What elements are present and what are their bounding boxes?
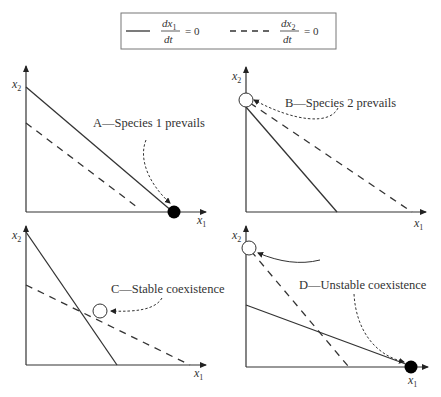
x-axis-label: x1 <box>413 216 423 232</box>
isocline-species2 <box>26 285 190 365</box>
isocline-species1 <box>246 305 411 366</box>
stable-equilibrium-point <box>168 206 181 219</box>
panel-b: x2 x1 B—Species 2 prevails <box>231 67 426 232</box>
panel-a: x2 x1 A—Species 1 prevails <box>11 66 206 229</box>
isocline-species1 <box>26 232 117 365</box>
equilibrium-point-filled <box>405 361 418 374</box>
legend: dx1 dt = 0 dx2 dt = 0 <box>121 13 336 49</box>
panel-c: x2 x1 C—Stable coexistence <box>11 226 225 382</box>
legend-solid-equals: = 0 <box>185 25 200 37</box>
panel-a-caption: A—Species 1 prevails <box>93 116 205 130</box>
isocline-diagram: dx1 dt = 0 dx2 dt = 0 x2 x1 A—Species 1 … <box>0 0 441 397</box>
equilibrium-point-open <box>242 241 256 255</box>
panel-b-caption: B—Species 2 prevails <box>285 96 396 110</box>
coexistence-equilibrium-point <box>93 304 107 318</box>
panel-d: x2 x1 D—Unstable coexistence <box>231 226 428 389</box>
y-axis-label: x2 <box>231 228 241 244</box>
x-axis-label: x1 <box>196 213 206 229</box>
x-axis-label: x1 <box>407 373 417 389</box>
legend-dashed-equals: = 0 <box>304 25 319 37</box>
legend-solid-denominator: dt <box>164 33 174 45</box>
pointer-arrow-open <box>258 253 320 262</box>
isocline-species2 <box>251 251 348 366</box>
panel-d-caption: D—Unstable coexistence <box>299 278 427 292</box>
panel-c-caption: C—Stable coexistence <box>111 282 225 296</box>
x-axis-label: x1 <box>193 366 203 382</box>
pointer-arrow <box>111 298 162 311</box>
isocline-species1 <box>26 87 173 212</box>
pointer-arrow-filled <box>354 294 404 362</box>
legend-dashed-denominator: dt <box>283 33 293 45</box>
isocline-species1 <box>246 107 337 212</box>
y-axis-label: x2 <box>231 69 241 85</box>
isocline-species2 <box>250 103 412 212</box>
isocline-species2 <box>26 123 137 207</box>
y-axis-label: x2 <box>11 228 21 244</box>
equilibrium-point <box>239 93 253 107</box>
pointer-arrow <box>143 140 170 203</box>
y-axis-label: x2 <box>11 77 21 93</box>
